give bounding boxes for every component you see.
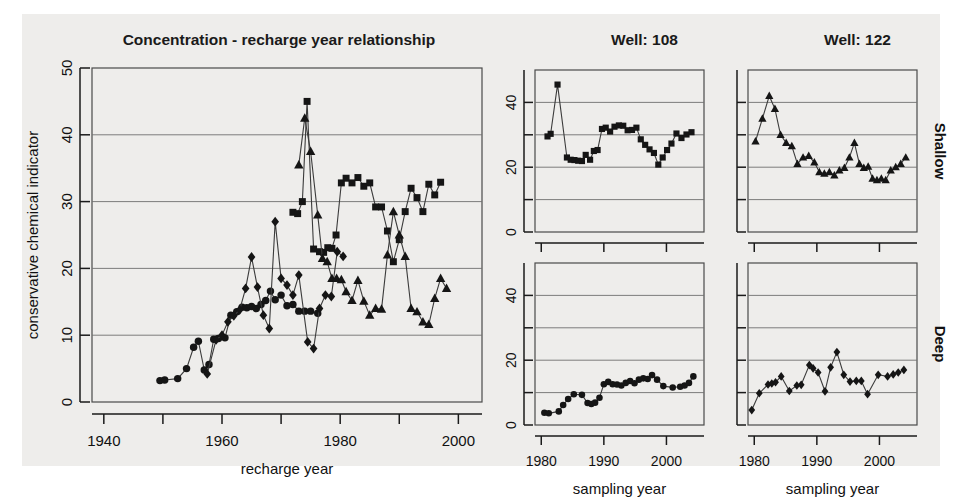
data-point-triangle: [825, 168, 833, 175]
data-point-diamond: [339, 251, 347, 261]
panel-y-tick-label-well108-shallow: 0: [503, 228, 519, 236]
data-point-triangle: [418, 317, 427, 325]
plot-surface: Concentration - recharge year relationsh…: [0, 0, 962, 501]
data-point-circle: [596, 394, 603, 401]
panel-box-well108-deep: [535, 263, 704, 425]
data-point-triangle: [294, 160, 303, 168]
panel-x-tick-label-well108-deep: 1990: [588, 453, 619, 469]
data-point-square: [304, 98, 311, 105]
data-point-square: [437, 179, 444, 186]
data-point-triangle: [359, 296, 368, 304]
series-line-triangle: [299, 118, 447, 324]
panel-row-label-0: Shallow: [932, 123, 949, 180]
data-point-triangle: [406, 304, 415, 312]
panel-x-axis-label-well122-deep: sampling year: [786, 480, 879, 497]
data-point-square: [548, 131, 554, 137]
data-point-circle: [579, 392, 586, 399]
data-point-square: [668, 140, 674, 146]
data-point-square: [664, 147, 670, 153]
data-point-circle: [183, 365, 190, 372]
data-point-square: [595, 147, 601, 153]
main-x-tick-label: 1980: [323, 432, 356, 449]
data-point-diamond: [289, 290, 297, 300]
panel-y-tick-label-well108-deep: 20: [503, 352, 519, 368]
data-point-circle: [555, 408, 562, 415]
data-point-circle: [686, 380, 693, 387]
data-point-circle: [262, 297, 269, 304]
data-point-circle: [271, 296, 278, 303]
panel-box-well122-shallow: [748, 70, 917, 232]
data-point-triangle: [442, 284, 451, 292]
panel-y-tick-label-well108-deep: 0: [503, 421, 519, 429]
data-point-triangle: [805, 152, 813, 159]
data-point-square: [408, 185, 415, 192]
data-point-circle: [565, 396, 572, 403]
main-plot-title: Concentration - recharge year relationsh…: [123, 31, 436, 48]
data-point-triangle: [758, 114, 766, 121]
data-point-square: [328, 245, 335, 252]
data-point-circle: [190, 344, 197, 351]
data-point-square: [402, 208, 409, 215]
panel-column-title-0: Well: 108: [611, 31, 678, 48]
data-point-circle: [649, 372, 656, 379]
data-point-circle: [174, 375, 181, 382]
data-point-diamond: [786, 387, 793, 396]
main-y-tick-label: 10: [58, 327, 75, 344]
data-point-diamond: [900, 366, 907, 375]
data-point-triangle: [341, 287, 350, 295]
data-point-diamond: [798, 380, 805, 389]
data-point-triangle: [765, 92, 773, 99]
panel-y-tick-label-well108-shallow: 20: [503, 159, 519, 175]
data-point-triangle: [864, 162, 872, 169]
data-point-diamond: [322, 290, 330, 300]
data-point-diamond: [242, 284, 250, 294]
data-point-circle: [161, 376, 168, 383]
main-y-tick-label: 30: [58, 193, 75, 210]
data-point-diamond: [248, 252, 256, 262]
data-point-triangle: [401, 251, 410, 259]
data-point-square: [688, 129, 694, 135]
data-point-triangle: [845, 153, 853, 160]
panel-column-title-1: Well: 122: [824, 31, 891, 48]
data-point-square: [419, 208, 426, 215]
main-y-tick-label: 20: [58, 260, 75, 277]
data-point-circle: [669, 384, 676, 391]
data-point-square: [354, 174, 361, 181]
panel-y-tick-label-well108-shallow: 40: [503, 94, 519, 110]
data-point-diamond: [815, 368, 822, 377]
panel-box-well108-shallow: [535, 70, 704, 232]
data-point-diamond: [327, 292, 335, 302]
data-point-triangle: [347, 296, 356, 304]
data-point-circle: [654, 376, 661, 383]
panel-x-tick-label-well122-deep: 1990: [801, 453, 832, 469]
data-point-diamond: [875, 370, 882, 379]
data-point-diamond: [271, 217, 279, 227]
data-point-circle: [195, 337, 202, 344]
data-point-circle: [307, 307, 314, 314]
data-point-diamond: [260, 310, 268, 320]
data-point-triangle: [353, 276, 362, 284]
data-point-square: [390, 258, 397, 265]
main-x-tick-label: 1940: [87, 432, 120, 449]
data-point-square: [579, 158, 585, 164]
main-y-tick-label: 0: [58, 398, 75, 406]
panel-row-label-1: Deep: [932, 326, 949, 363]
main-plot-box: [92, 68, 482, 402]
data-point-square: [366, 179, 373, 186]
data-point-circle: [571, 391, 578, 398]
data-point-square: [333, 232, 340, 239]
panel-y-tick-label-well108-deep: 40: [503, 287, 519, 303]
data-point-square: [294, 210, 301, 217]
main-y-tick-label: 50: [58, 60, 75, 77]
data-point-square: [587, 157, 593, 163]
data-point-triangle: [855, 160, 863, 167]
data-point-triangle: [751, 137, 759, 144]
data-point-diamond: [884, 372, 891, 381]
data-point-triangle: [430, 294, 439, 302]
data-point-square: [655, 162, 661, 168]
data-point-circle: [545, 410, 552, 417]
data-point-diamond: [295, 270, 303, 280]
panel-x-axis-label-well108-deep: sampling year: [573, 480, 666, 497]
data-point-square: [431, 191, 438, 198]
figure-root: Concentration - recharge year relationsh…: [0, 0, 962, 501]
